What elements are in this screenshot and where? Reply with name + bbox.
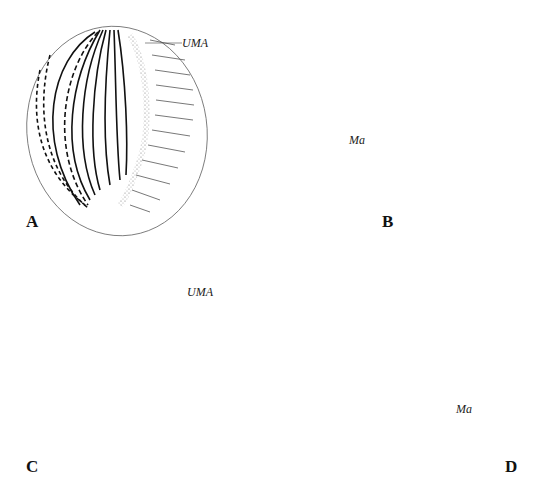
panel-label-a: A <box>26 212 38 232</box>
annotation-ma-b: Ma <box>349 133 365 148</box>
annotation-uma-a: UMA <box>182 36 208 51</box>
annotation-uma-c: UMA <box>187 285 213 300</box>
panel-label-b: B <box>382 212 393 232</box>
panel-label-c: C <box>26 457 38 477</box>
annotation-ma-d: Ma <box>456 402 472 417</box>
panel-label-d: D <box>505 457 517 477</box>
figure-drawings <box>0 0 544 496</box>
